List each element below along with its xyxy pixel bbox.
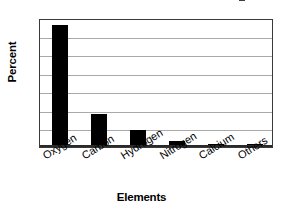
y-axis-title: Percent: [6, 27, 18, 97]
gridline: [40, 56, 272, 57]
cropped-title-remnant: [239, 0, 245, 1]
gridline: [40, 93, 272, 94]
gridline: [40, 38, 272, 39]
gridline: [40, 75, 272, 76]
bar-oxygen: [52, 25, 68, 147]
x-axis-title: Elements: [0, 191, 283, 203]
x-axis-baseline: [40, 145, 272, 147]
bar-chart-figure: Percent 010203040506070 OxygenCarbonHydr…: [0, 0, 283, 210]
gridline: [40, 112, 272, 113]
